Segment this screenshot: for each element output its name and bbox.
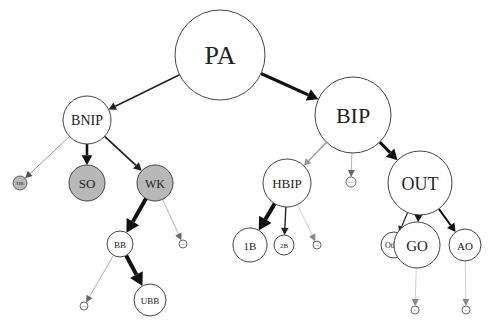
edge-line bbox=[261, 74, 308, 95]
edge-line bbox=[30, 136, 69, 173]
node-ao-small: SF bbox=[462, 306, 470, 314]
node-hbip-small: 3B bbox=[313, 241, 321, 249]
node-bip-small: ROE bbox=[346, 177, 356, 187]
node-label: ROE bbox=[349, 181, 354, 184]
node-label: BB bbox=[114, 240, 126, 250]
edge-bip-to-bip_small bbox=[348, 153, 355, 177]
edge-line bbox=[465, 261, 466, 299]
edge-line bbox=[285, 207, 286, 228]
edge-bip-to-hbip bbox=[304, 142, 327, 166]
node-out: OUT bbox=[388, 151, 452, 215]
tree-diagram: PABNIPBIPHRSOWKBBHBPIBBUBBHBIPROEOUT1B2B… bbox=[0, 0, 493, 329]
arrowhead-icon bbox=[462, 299, 469, 306]
edge-line bbox=[351, 153, 352, 170]
node-label: SO bbox=[79, 176, 96, 191]
nodes-layer: PABNIPBIPHRSOWKBBHBPIBBUBBHBIPROEOUT1B2B… bbox=[13, 10, 481, 316]
node-label: HBIP bbox=[272, 176, 302, 191]
node-label: PA bbox=[205, 41, 236, 70]
edge-line bbox=[380, 142, 390, 153]
node-bip: BIP bbox=[315, 77, 391, 153]
node-so: SO bbox=[69, 165, 105, 201]
edge-line bbox=[126, 255, 136, 274]
node-1b: 1B bbox=[233, 228, 267, 262]
arrowhead-icon bbox=[281, 228, 289, 235]
node-ao: AO bbox=[449, 229, 481, 261]
edge-pa-to-bnip bbox=[109, 75, 180, 110]
edge-hbip-to-1b bbox=[259, 204, 275, 231]
node-wk: WK bbox=[137, 165, 173, 201]
edge-line bbox=[115, 75, 179, 106]
edge-bb-to-bb_small bbox=[86, 255, 113, 302]
arrowhead-icon bbox=[86, 295, 93, 303]
node-label: GO bbox=[406, 238, 428, 254]
edge-wk-to-bb bbox=[126, 199, 146, 233]
node-bnip: BNIP bbox=[63, 96, 111, 144]
edge-ao-to-ao_small bbox=[462, 261, 469, 306]
node-2b: 2B bbox=[274, 235, 294, 255]
node-label: UBB bbox=[141, 296, 160, 306]
arrowhead-icon bbox=[412, 299, 419, 306]
edge-line bbox=[439, 209, 451, 225]
arrowhead-icon bbox=[348, 170, 355, 177]
edge-line bbox=[105, 136, 136, 165]
node-label: 1B bbox=[244, 240, 257, 252]
edge-wk-to-wk_small bbox=[163, 199, 182, 240]
node-hr: HR bbox=[13, 176, 27, 190]
edge-go-to-go_small bbox=[412, 268, 419, 306]
node-label: OUT bbox=[402, 174, 439, 194]
node-ubb: UBB bbox=[134, 284, 166, 316]
node-pa: PA bbox=[175, 10, 265, 100]
edge-hbip-to-2b bbox=[281, 207, 289, 235]
edge-bnip-to-hr bbox=[25, 136, 69, 178]
node-label: WK bbox=[145, 177, 165, 191]
node-label: HBP bbox=[181, 243, 186, 246]
edge-pa-to-bip bbox=[261, 74, 318, 101]
node-wk-small: HBP bbox=[179, 240, 187, 248]
node-bb: BB bbox=[107, 231, 133, 257]
edge-line bbox=[415, 268, 416, 299]
edge-bnip-to-so bbox=[82, 144, 93, 165]
arrowhead-icon bbox=[82, 155, 93, 165]
edge-line bbox=[163, 199, 179, 234]
tree-svg: PABNIPBIPHRSOWKBBHBPIBBUBBHBIPROEOUT1B2B… bbox=[0, 0, 493, 329]
edge-line bbox=[309, 142, 327, 160]
edge-line bbox=[265, 204, 274, 220]
node-bb-small: IBB bbox=[80, 302, 88, 310]
edge-hbip-to-hbip_small bbox=[297, 205, 315, 242]
edge-line bbox=[133, 199, 146, 222]
node-label: BNIP bbox=[71, 113, 103, 128]
edge-bip-to-out bbox=[380, 142, 398, 160]
node-label: HR bbox=[17, 181, 25, 186]
arrowhead-icon bbox=[447, 223, 456, 233]
node-go: GO bbox=[394, 222, 440, 268]
node-label: 2B bbox=[280, 242, 289, 250]
node-label: 3B bbox=[316, 244, 319, 247]
node-label: IBB bbox=[82, 305, 87, 308]
node-hbip: HBIP bbox=[263, 159, 311, 207]
node-go-small: DP bbox=[411, 306, 419, 314]
edge-line bbox=[297, 205, 312, 235]
node-label: BIP bbox=[336, 103, 370, 128]
edge-out-to-ao bbox=[439, 209, 456, 232]
edge-line bbox=[90, 255, 114, 296]
node-label: AO bbox=[457, 240, 473, 252]
edge-bb-to-ubb bbox=[126, 255, 143, 285]
edge-bnip-to-wk bbox=[105, 136, 142, 170]
